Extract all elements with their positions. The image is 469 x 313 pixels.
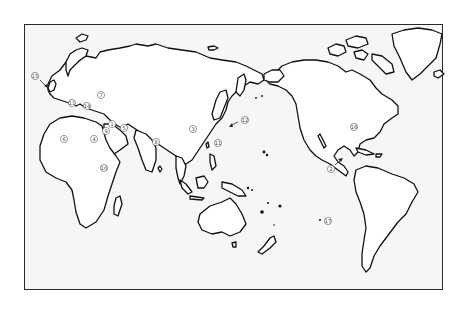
north-america (266, 60, 398, 176)
marker-17: 17 (324, 217, 331, 224)
marker-11: 11 (68, 99, 75, 106)
arctic-archipelago-3 (354, 50, 368, 60)
marker-number: 6 (62, 136, 65, 142)
cuba (356, 148, 374, 155)
iceland (434, 70, 444, 78)
marker-9: 9 (102, 127, 109, 134)
marker-7: 7 (97, 91, 104, 98)
easter-island (319, 219, 321, 221)
marker-6: 6 (60, 135, 67, 142)
new-zealand (258, 236, 276, 254)
pacific-island (273, 224, 275, 226)
marker-number: 1 (110, 121, 113, 127)
hispaniola (376, 154, 382, 157)
world-map: 1234567891011111214151617 (0, 0, 469, 313)
pacific-island (266, 154, 268, 156)
java (190, 196, 204, 200)
marker-10: 10 (100, 164, 107, 171)
marker-number: 11 (215, 140, 221, 146)
marker-number: 2 (329, 166, 332, 172)
philippines (210, 154, 216, 170)
aleutian-island (261, 95, 263, 97)
arrow-15 (40, 80, 48, 88)
map-stage: 1234567891011111214151617 (0, 0, 469, 313)
marker-4: 4 (90, 135, 97, 142)
marker-2: 2 (327, 165, 334, 172)
novaya-zemlya (76, 34, 88, 42)
marker-8: 8 (152, 138, 159, 145)
sumatra (180, 180, 192, 194)
marker-number: 12 (242, 117, 248, 123)
marker-12: 12 (241, 116, 248, 123)
australia (198, 198, 246, 236)
borneo (196, 176, 208, 188)
pacific-island (251, 189, 253, 191)
marker-16: 16 (350, 123, 357, 130)
tasmania (232, 242, 236, 247)
marker-number: 15 (32, 73, 38, 79)
pacific-island (263, 151, 266, 154)
marker-number: 14 (84, 103, 90, 109)
madagascar (114, 196, 122, 216)
marker-number: 7 (99, 92, 102, 98)
arrow-12 (229, 122, 238, 127)
marker-number: 4 (92, 136, 95, 142)
marker-14: 14 (83, 102, 90, 109)
new-guinea (222, 182, 246, 196)
pacific-island (267, 202, 269, 204)
marker-number: 10 (101, 165, 107, 171)
sri-lanka (158, 166, 162, 172)
marker-number: 8 (154, 139, 157, 145)
marker-number: 11 (69, 100, 75, 106)
severnaya-zemlya (208, 46, 218, 50)
marker-number: 3 (191, 126, 194, 132)
aleutian-island (255, 97, 257, 99)
marker-1: 1 (108, 120, 115, 127)
arctic-archipelago-1 (328, 44, 346, 56)
marker-15: 15 (31, 72, 38, 79)
marker-number: 5 (122, 125, 125, 131)
taiwan (206, 142, 209, 148)
baffin-island (372, 54, 394, 74)
pacific-island (260, 210, 264, 214)
marker-3: 3 (189, 125, 196, 132)
arctic-archipelago-2 (346, 36, 368, 48)
pacific-island (278, 204, 281, 207)
marker-11: 11 (214, 139, 221, 146)
marker-number: 9 (104, 128, 107, 134)
south-america (354, 166, 418, 272)
pacific-island (247, 187, 249, 189)
marker-number: 17 (325, 218, 331, 224)
marker-5: 5 (120, 124, 127, 131)
marker-number: 16 (351, 124, 357, 130)
